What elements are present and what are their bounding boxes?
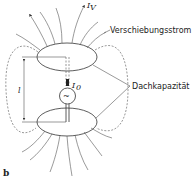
capacitance-leader-top [93, 65, 130, 86]
field-line [91, 128, 112, 138]
current-0-sub: 0 [76, 83, 81, 92]
panel-label: b [3, 168, 9, 178]
capacitance-leader-bottom [96, 86, 130, 118]
field-line [72, 6, 84, 43]
outer-field-line-right [95, 46, 128, 131]
field-line [56, 8, 62, 43]
field-line [87, 32, 106, 48]
antenna-diagram: ~ I 0 l I V Verschiebungsstrom Dachkapaz… [0, 0, 193, 181]
ac-source-symbol: ~ [63, 92, 70, 101]
displacement-current-label: Verschiebungsstrom [110, 26, 192, 35]
top-capacitance-label: Dachkapazität [132, 82, 190, 91]
field-line [75, 135, 88, 170]
current-v-sub: V [90, 3, 97, 12]
field-line [16, 34, 40, 50]
field-line [40, 12, 55, 44]
outer-field-line-left [6, 46, 38, 133]
field-line [84, 132, 102, 156]
field-line [30, 15, 47, 46]
feed-current-marker [66, 79, 69, 86]
field-line [50, 135, 60, 172]
field-line [67, 136, 72, 176]
field-line [30, 134, 52, 160]
field-line [80, 22, 98, 45]
length-label: l [18, 86, 21, 95]
